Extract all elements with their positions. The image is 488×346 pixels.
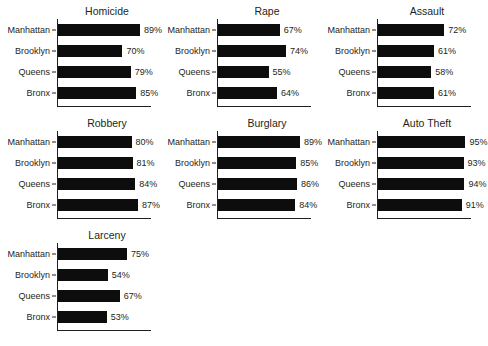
bar-value-label: 95% xyxy=(469,136,487,147)
y-axis-tick xyxy=(372,93,376,94)
bar-row: Brooklyn93% xyxy=(377,152,471,173)
bar-row: Brooklyn85% xyxy=(217,152,311,173)
bar-rows: Manhattan95%Brooklyn93%Queens94%Bronx91% xyxy=(377,131,471,216)
bar-value-label: 79% xyxy=(135,67,153,78)
y-axis-tick xyxy=(372,29,376,30)
category-label: Brooklyn xyxy=(335,157,370,168)
bar xyxy=(218,157,296,169)
plot-area: Manhattan89%Brooklyn85%Queens86%Bronx84% xyxy=(217,131,311,219)
category-label: Queens xyxy=(178,67,210,78)
bar xyxy=(58,199,138,211)
bar-rows: Manhattan75%Brooklyn54%Queens67%Bronx53% xyxy=(57,243,151,328)
bar-row: Queens58% xyxy=(377,62,471,83)
facet-chart-grid: HomicideManhattan89%Brooklyn70%Queens79%… xyxy=(0,0,488,346)
bar-value-label: 74% xyxy=(290,45,308,56)
bar-value-label: 67% xyxy=(284,24,302,35)
facet-panel: AssaultManhattan72%Brooklyn61%Queens58%B… xyxy=(320,0,483,112)
y-axis-tick xyxy=(52,184,56,185)
bar-row: Bronx91% xyxy=(377,195,471,216)
bar-row: Queens86% xyxy=(217,174,311,195)
facet-title: Robbery xyxy=(57,116,157,130)
bar-value-label: 80% xyxy=(136,136,154,147)
bar-row: Manhattan95% xyxy=(377,131,471,152)
y-axis-tick xyxy=(372,50,376,51)
plot-area: Manhattan67%Brooklyn74%Queens55%Bronx64% xyxy=(217,19,311,107)
bar-row: Manhattan89% xyxy=(57,19,151,40)
category-label: Brooklyn xyxy=(175,157,210,168)
y-axis-tick xyxy=(52,205,56,206)
y-axis-tick xyxy=(52,141,56,142)
bar-value-label: 85% xyxy=(300,157,318,168)
y-axis-tick xyxy=(52,162,56,163)
category-label: Queens xyxy=(178,179,210,190)
y-axis-tick xyxy=(212,72,216,73)
plot-area: Manhattan80%Brooklyn81%Queens84%Bronx87% xyxy=(57,131,151,219)
bar-row: Queens55% xyxy=(217,62,311,83)
x-axis-line xyxy=(217,218,311,219)
facet-title: Auto Theft xyxy=(377,116,477,130)
x-axis-line xyxy=(57,330,151,331)
bar-value-label: 61% xyxy=(438,45,456,56)
facet-panel: RapeManhattan67%Brooklyn74%Queens55%Bron… xyxy=(160,0,323,112)
bar xyxy=(218,87,277,99)
bar xyxy=(378,24,444,36)
bar xyxy=(378,136,465,148)
category-label: Bronx xyxy=(186,88,210,99)
y-axis-tick xyxy=(52,93,56,94)
facet-title: Rape xyxy=(217,4,317,18)
y-axis-tick xyxy=(52,29,56,30)
bar-value-label: 64% xyxy=(281,88,299,99)
bar-row: Manhattan75% xyxy=(57,243,151,264)
y-axis-tick xyxy=(372,184,376,185)
category-label: Brooklyn xyxy=(175,45,210,56)
bar-value-label: 72% xyxy=(448,24,466,35)
bar-row: Queens79% xyxy=(57,62,151,83)
y-axis-tick xyxy=(372,141,376,142)
bar xyxy=(378,45,434,57)
bar-row: Manhattan67% xyxy=(217,19,311,40)
plot-area: Manhattan95%Brooklyn93%Queens94%Bronx91% xyxy=(377,131,471,219)
bar-rows: Manhattan80%Brooklyn81%Queens84%Bronx87% xyxy=(57,131,151,216)
bar-row: Manhattan89% xyxy=(217,131,311,152)
bar-value-label: 53% xyxy=(111,312,129,323)
y-axis-tick xyxy=(52,50,56,51)
bar-row: Brooklyn54% xyxy=(57,264,151,285)
bar xyxy=(58,87,136,99)
bar-value-label: 86% xyxy=(301,179,319,190)
bar-value-label: 94% xyxy=(468,179,486,190)
y-axis-tick xyxy=(212,93,216,94)
bar xyxy=(378,178,464,190)
bar xyxy=(58,136,132,148)
category-label: Brooklyn xyxy=(15,269,50,280)
bar-rows: Manhattan72%Brooklyn61%Queens58%Bronx61% xyxy=(377,19,471,104)
bar-row: Bronx61% xyxy=(377,83,471,104)
facet-panel: RobberyManhattan80%Brooklyn81%Queens84%B… xyxy=(0,112,163,224)
bar-value-label: 91% xyxy=(466,200,484,211)
facet-panel: Auto TheftManhattan95%Brooklyn93%Queens9… xyxy=(320,112,483,224)
bar xyxy=(58,157,133,169)
bar xyxy=(58,24,140,36)
bar-value-label: 93% xyxy=(468,157,486,168)
bar xyxy=(378,199,462,211)
bar-row: Brooklyn61% xyxy=(377,40,471,61)
category-label: Queens xyxy=(18,179,50,190)
y-axis-tick xyxy=(212,162,216,163)
bar xyxy=(58,45,122,57)
plot-area: Manhattan75%Brooklyn54%Queens67%Bronx53% xyxy=(57,243,151,331)
x-axis-line xyxy=(377,106,471,107)
bar xyxy=(378,157,464,169)
bar-value-label: 81% xyxy=(137,157,155,168)
category-label: Queens xyxy=(338,67,370,78)
bar-row: Bronx53% xyxy=(57,307,151,328)
category-label: Manhattan xyxy=(327,136,370,147)
y-axis-tick xyxy=(52,72,56,73)
bar xyxy=(58,311,107,323)
x-axis-line xyxy=(217,106,311,107)
bar xyxy=(58,66,131,78)
facet-panel: HomicideManhattan89%Brooklyn70%Queens79%… xyxy=(0,0,163,112)
x-axis-line xyxy=(57,106,151,107)
facet-panel: BurglaryManhattan89%Brooklyn85%Queens86%… xyxy=(160,112,323,224)
bar xyxy=(378,87,434,99)
y-axis-tick xyxy=(52,317,56,318)
bar-rows: Manhattan89%Brooklyn70%Queens79%Bronx85% xyxy=(57,19,151,104)
